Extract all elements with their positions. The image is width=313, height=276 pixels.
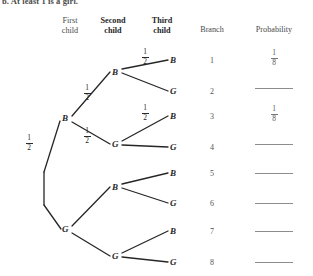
- tree-edge-g-to-gg: [72, 233, 110, 256]
- probability-answer-blank-6: [255, 203, 293, 204]
- probability-cell-7[interactable]: [252, 231, 296, 232]
- branch-number-1: 1: [205, 56, 219, 65]
- edge-prob-b-bg: 1 2: [80, 127, 94, 145]
- tree-leaf-8: G: [170, 257, 177, 267]
- branch-number-6: 6: [205, 199, 219, 208]
- probability-answer-blank-8: [255, 262, 293, 263]
- tree-leaf-1: B: [169, 55, 176, 65]
- probability-answer-blank-5: [255, 173, 293, 174]
- tree-edge-gg-to-leaf8: [122, 257, 168, 262]
- tree-edge-gb-to-leaf6: [122, 188, 168, 203]
- probability-answer-blank-7: [255, 231, 293, 232]
- edge-prob-b-bb: 1 2: [80, 84, 94, 102]
- tree-node-second-bb: B: [111, 67, 118, 77]
- tree-diagram-svg: B G B G B G B G B G B G B G: [0, 0, 313, 276]
- probability-cell-5[interactable]: [252, 173, 296, 174]
- tree-node-first-g: G: [62, 224, 69, 234]
- tree-edge-root-to-g: [44, 205, 61, 229]
- probability-fraction-1: 1 8: [252, 49, 296, 67]
- probability-cell-8[interactable]: [252, 262, 296, 263]
- branch-number-2: 2: [205, 87, 219, 96]
- probability-cell-2[interactable]: [252, 88, 296, 89]
- probability-cell-6[interactable]: [252, 203, 296, 204]
- probability-tree-figure: b. At least 1 is a girl. First child Sec…: [0, 0, 313, 276]
- tree-edge-bg-to-leaf4: [122, 145, 168, 147]
- probability-answer-blank-2: [255, 88, 293, 89]
- tree-edge-g-to-gb: [72, 187, 110, 226]
- tree-edge-gg-to-leaf7: [122, 231, 168, 253]
- edge-prob-bg-leaf3: 1 2: [138, 104, 152, 122]
- probability-cell-1[interactable]: 1 8: [252, 49, 296, 67]
- tree-node-second-gb: B: [111, 182, 118, 192]
- tree-edge-bb-to-leaf2: [122, 73, 168, 91]
- probability-fraction-3: 1 8: [252, 105, 296, 123]
- tree-leaf-7: B: [169, 226, 176, 236]
- tree-node-second-gg: G: [112, 251, 119, 261]
- tree-leaf-6: G: [170, 198, 177, 208]
- tree-edge-root-to-b: [44, 121, 60, 172]
- probability-answer-blank-4: [255, 144, 293, 145]
- branch-number-3: 3: [205, 112, 219, 121]
- tree-node-second-bg: G: [112, 139, 119, 149]
- tree-leaf-4: G: [170, 142, 177, 152]
- edge-prob-bb-leaf1: 1 2: [138, 48, 152, 66]
- tree-leaf-2: G: [170, 86, 177, 96]
- tree-node-first-b: B: [61, 113, 68, 123]
- branch-number-7: 7: [205, 227, 219, 236]
- probability-cell-4[interactable]: [252, 144, 296, 145]
- tree-leaf-3: B: [169, 111, 176, 121]
- branch-number-8: 8: [205, 258, 219, 267]
- tree-leaf-5: B: [169, 168, 176, 178]
- edge-prob-root-b: 1 2: [22, 134, 36, 152]
- tree-edge-gb-to-leaf5: [122, 173, 168, 184]
- probability-cell-3[interactable]: 1 8: [252, 105, 296, 123]
- branch-number-5: 5: [205, 169, 219, 178]
- branch-number-4: 4: [205, 143, 219, 152]
